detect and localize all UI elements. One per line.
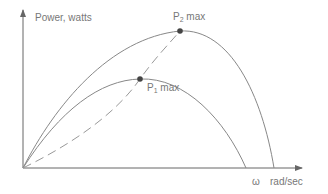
x-axis-units-label: rad/sec — [270, 177, 303, 187]
diagram-canvas — [0, 0, 328, 194]
max-power-locus — [23, 31, 180, 168]
p2-suffix: max — [184, 11, 206, 22]
p2-max-point — [177, 28, 183, 34]
p1-suffix: max — [158, 82, 180, 93]
p2-main: P — [173, 11, 180, 22]
power-vs-speed-diagram: Power, watts P2 max P1 max ω rad/sec — [0, 0, 328, 194]
y-axis-label: Power, watts — [35, 13, 92, 23]
p1-max-label: P1 max — [147, 83, 179, 94]
p1-max-point — [137, 76, 143, 82]
p2-max-label: P2 max — [173, 12, 205, 23]
omega-label: ω — [252, 177, 260, 187]
p1-main: P — [147, 82, 154, 93]
power-curve-1 — [23, 79, 246, 168]
